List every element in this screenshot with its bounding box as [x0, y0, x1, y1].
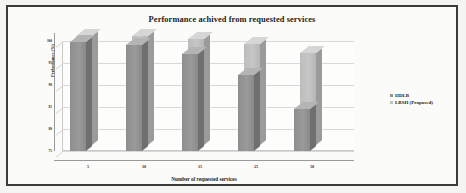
bar-hdlb — [70, 42, 86, 151]
bar-face-side — [142, 40, 148, 151]
bar-face-front — [126, 45, 142, 151]
x-axis-title: Number of requested services — [54, 176, 354, 182]
bar-face-side — [310, 104, 316, 151]
plot-area: 100 95 90 85 80 75 5 10 15 25 50 Perform… — [54, 33, 354, 161]
y-tick-label: 85 — [28, 105, 52, 109]
legend-label: LBSH (Proposed) — [395, 100, 433, 105]
bar-face-side — [254, 71, 260, 151]
bar-hdlb — [294, 109, 310, 151]
bar-face-side — [92, 32, 98, 145]
x-tick-label: 10 — [124, 164, 164, 169]
y-tick-label: 90 — [28, 83, 52, 87]
bar-hdlb — [238, 75, 254, 151]
bar-face-front — [70, 42, 86, 151]
bar-face-front — [238, 75, 254, 151]
x-tick-label: 50 — [292, 164, 332, 169]
legend-swatch-hdlb — [390, 94, 393, 97]
y-tick-label: 100 — [28, 39, 52, 43]
bar-face-front — [182, 54, 198, 151]
chart-figure: Performance achived from requested servi… — [6, 5, 458, 186]
legend-item-lbsh[interactable]: LBSH (Proposed) — [390, 100, 433, 105]
x-axis-line — [54, 160, 354, 161]
chart-legend: HDLB LBSH (Proposed) — [390, 93, 433, 107]
legend-swatch-lbsh — [390, 101, 393, 104]
legend-label: HDLB — [395, 93, 409, 98]
x-tick-label: 5 — [68, 164, 108, 169]
bar-face-side — [148, 32, 154, 145]
x-tick-label: 25 — [236, 164, 276, 169]
bar-face-side — [260, 39, 266, 145]
bar-face-side — [86, 38, 92, 151]
bar-face-side — [198, 50, 204, 151]
chart-title: Performance achived from requested servi… — [8, 15, 456, 24]
bar-face-side — [204, 34, 210, 145]
legend-item-hdlb[interactable]: HDLB — [390, 93, 433, 98]
y-tick-label: 75 — [28, 149, 52, 153]
bar-face-side — [316, 48, 322, 145]
y-tick-label: 80 — [28, 127, 52, 131]
y-axis-title: Performance (%) — [50, 44, 55, 77]
bar-hdlb — [182, 54, 198, 151]
y-tick-label: 95 — [28, 61, 52, 65]
bar-hdlb — [126, 45, 142, 151]
bar-face-front — [294, 109, 310, 151]
x-tick-label: 15 — [180, 164, 220, 169]
